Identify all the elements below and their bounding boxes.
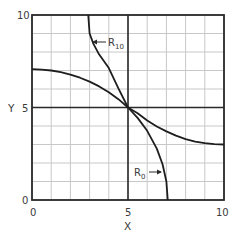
y-tick-0: 0 (22, 195, 28, 206)
r0-annotation: R0 (134, 167, 162, 181)
r10-label: R10 (108, 37, 124, 51)
y-tick-10: 10 (17, 10, 30, 21)
y-tick-5: 5 (22, 103, 28, 114)
y-axis-label: Y (7, 102, 15, 114)
r0-label: R0 (134, 167, 145, 181)
x-axis-label: X (124, 220, 131, 232)
x-tick-5: 5 (125, 207, 131, 218)
x-tick-10: 10 (216, 207, 229, 218)
x-tick-0: 0 (30, 207, 36, 218)
chart: R10 R0 10 5 0 Y 0 5 10 X (0, 0, 232, 241)
chart-svg: R10 R0 10 5 0 Y 0 5 10 X (0, 0, 232, 241)
r0-arrow-head-icon (157, 170, 162, 175)
